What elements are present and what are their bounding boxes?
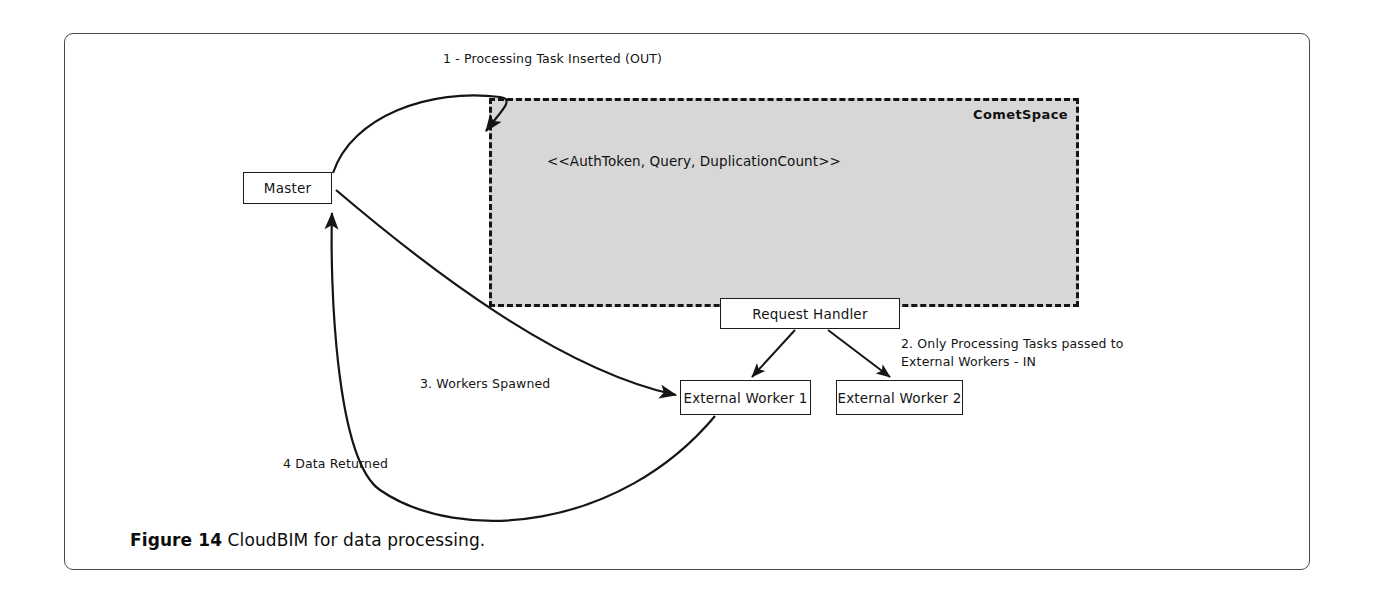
flow-label-step4: 4 Data Returned <box>283 455 388 473</box>
node-external-worker-1[interactable]: External Worker 1 <box>680 380 811 415</box>
flow-label-step3: 3. Workers Spawned <box>420 375 550 393</box>
figure-caption-label: Figure 14 <box>130 530 222 550</box>
figure-root: CometSpace <<AuthToken, Query, Duplicati… <box>0 0 1375 599</box>
node-external-worker-2[interactable]: External Worker 2 <box>836 380 963 415</box>
figure-caption: Figure 14 CloudBIM for data processing. <box>130 530 485 550</box>
cometspace-label: CometSpace <box>973 107 1068 122</box>
node-request-handler-label: Request Handler <box>752 306 867 322</box>
flow-label-step1: 1 - Processing Task Inserted (OUT) <box>443 50 662 68</box>
node-master[interactable]: Master <box>243 172 332 204</box>
flow-label-step2: 2. Only Processing Tasks passed to Exter… <box>901 335 1124 371</box>
page-edge <box>0 0 4 599</box>
cometspace-tuple-label: <<AuthToken, Query, DuplicationCount>> <box>547 153 841 169</box>
figure-caption-text: CloudBIM for data processing. <box>222 530 485 550</box>
cometspace-region: CometSpace <box>489 98 1079 307</box>
node-external-worker-1-label: External Worker 1 <box>683 390 807 406</box>
node-master-label: Master <box>264 180 311 196</box>
node-request-handler[interactable]: Request Handler <box>720 298 900 329</box>
node-external-worker-2-label: External Worker 2 <box>837 390 961 406</box>
